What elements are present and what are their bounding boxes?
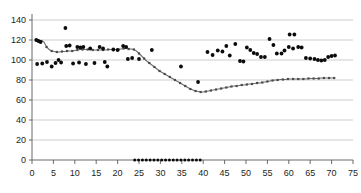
data-point xyxy=(101,47,105,51)
data-point xyxy=(81,45,85,49)
y-tick-label-0: 0 xyxy=(21,155,26,165)
series-marker xyxy=(282,78,284,80)
data-point xyxy=(179,65,183,69)
y-tick-label-100: 100 xyxy=(11,55,26,65)
x-axis-tick-labels: 051015202530354045505560657075 xyxy=(29,168,358,178)
data-point xyxy=(160,159,163,162)
series-marker xyxy=(287,78,289,80)
data-point xyxy=(268,37,272,41)
data-point xyxy=(98,45,102,49)
data-point xyxy=(245,46,249,50)
data-point xyxy=(45,60,49,64)
series-marker xyxy=(164,73,166,75)
x-tick-label-30: 30 xyxy=(155,168,165,178)
series-marker xyxy=(51,50,53,52)
x-tick-label-25: 25 xyxy=(134,168,144,178)
y-tick-label-20: 20 xyxy=(16,135,26,145)
series-marker xyxy=(107,48,109,50)
data-point xyxy=(326,55,330,59)
data-point xyxy=(137,159,140,162)
series-marker xyxy=(71,50,73,52)
series-marker xyxy=(271,79,273,81)
x-tick-label-35: 35 xyxy=(177,168,187,178)
y-tick-label-140: 140 xyxy=(11,15,26,25)
data-point xyxy=(172,159,175,162)
series-marker xyxy=(318,77,320,79)
data-point xyxy=(304,56,308,60)
data-point xyxy=(103,60,107,64)
data-point xyxy=(63,26,67,30)
x-tick-label-20: 20 xyxy=(113,168,123,178)
y-axis-tick-labels: 020406080100120140 xyxy=(11,15,26,165)
series-marker xyxy=(277,79,279,81)
data-point xyxy=(330,54,334,58)
data-point xyxy=(288,33,292,37)
x-tick-label-55: 55 xyxy=(262,168,272,178)
series-marker xyxy=(302,78,304,80)
x-tick-label-10: 10 xyxy=(70,168,80,178)
data-point xyxy=(228,54,232,58)
series-marker xyxy=(189,88,191,90)
data-point xyxy=(71,62,75,66)
series-marker xyxy=(138,52,140,54)
data-point xyxy=(145,159,148,162)
gridlines xyxy=(32,20,353,140)
data-point xyxy=(88,47,92,51)
data-point xyxy=(195,159,198,162)
data-point xyxy=(199,159,202,162)
y-tick-label-80: 80 xyxy=(16,75,26,85)
data-point xyxy=(221,50,225,54)
data-series-group xyxy=(34,26,337,161)
series-marker xyxy=(266,80,268,82)
data-point xyxy=(40,62,44,66)
series-marker xyxy=(210,89,212,91)
data-point xyxy=(263,55,267,59)
series-marker xyxy=(184,85,186,87)
series-marker xyxy=(76,49,78,51)
x-tick-label-15: 15 xyxy=(91,168,101,178)
data-point xyxy=(319,59,323,63)
series-marker xyxy=(66,50,68,52)
data-point xyxy=(211,53,215,57)
data-point xyxy=(126,57,130,61)
data-point xyxy=(68,44,72,48)
data-point xyxy=(224,44,228,48)
series-marker xyxy=(241,84,243,86)
series-marker xyxy=(143,57,145,59)
series-marker xyxy=(220,87,222,89)
series-marker xyxy=(61,50,63,52)
data-point xyxy=(50,65,54,69)
data-point xyxy=(84,62,88,66)
series-marker xyxy=(225,86,227,88)
series-marker xyxy=(169,76,171,78)
data-point xyxy=(323,58,327,62)
data-point xyxy=(39,40,43,44)
data-point xyxy=(283,49,287,53)
data-point xyxy=(275,52,279,56)
data-point xyxy=(150,48,154,52)
data-point xyxy=(191,159,194,162)
data-point xyxy=(54,61,58,65)
data-point xyxy=(164,159,167,162)
chart-plot-area: 020406080100120140 051015202530354045505… xyxy=(0,0,361,193)
series-marker xyxy=(133,48,135,50)
series-marker xyxy=(307,77,309,79)
data-point xyxy=(238,59,242,63)
series-marker xyxy=(200,91,202,93)
x-tick-label-50: 50 xyxy=(241,168,251,178)
x-tick-label-65: 65 xyxy=(305,168,315,178)
data-point xyxy=(156,159,159,162)
data-point xyxy=(141,159,144,162)
series-marker xyxy=(158,70,160,72)
data-point xyxy=(77,61,81,65)
data-point xyxy=(252,51,256,55)
data-point xyxy=(116,48,120,52)
data-point xyxy=(187,159,190,162)
data-point xyxy=(313,57,317,61)
series-marker xyxy=(297,78,299,80)
data-point xyxy=(183,159,186,162)
x-tick-label-60: 60 xyxy=(284,168,294,178)
data-point xyxy=(35,62,39,66)
data-point xyxy=(196,80,200,84)
series-marker xyxy=(328,77,330,79)
